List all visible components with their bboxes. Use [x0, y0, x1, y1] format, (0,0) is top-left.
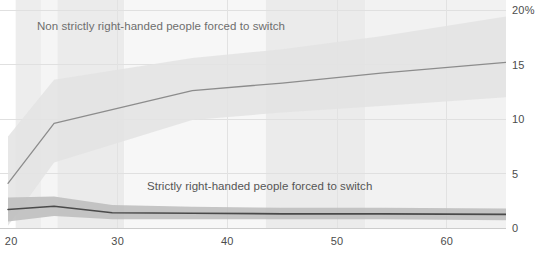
series-label-non-strictly-right-handed: Non strictly right-handed people forced …: [37, 20, 285, 33]
y-axis-tick-labels: 20%151050: [512, 0, 545, 240]
background-band-4: [266, 0, 366, 228]
y-tick-15: 15: [512, 60, 525, 71]
y-tick-10: 10: [512, 114, 525, 125]
x-tick-60: 60: [440, 236, 453, 247]
y-tick-0: 0: [512, 223, 518, 234]
series-label-strictly-right-handed: Strictly right-handed people forced to s…: [147, 180, 372, 193]
x-tick-50: 50: [331, 236, 344, 247]
plot-svg: [0, 0, 506, 229]
y-tick-20: 20%: [512, 5, 535, 16]
x-tick-40: 40: [221, 236, 234, 247]
x-tick-20: 20: [5, 236, 18, 247]
plot-area: [0, 0, 506, 229]
chart-container: Non strictly right-handed people forced …: [0, 0, 545, 261]
y-tick-5: 5: [512, 169, 518, 180]
x-tick-30: 30: [111, 236, 124, 247]
x-axis-tick-labels: 2030405060: [0, 236, 506, 258]
